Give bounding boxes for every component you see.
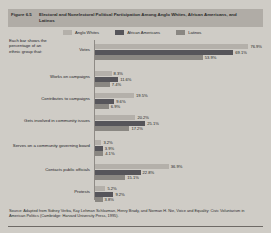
figure-title-line2: Latinos: [39, 18, 55, 23]
bar: [95, 186, 105, 191]
legend-swatch-icon: [63, 30, 72, 35]
bar-value-label: 69.1%: [235, 50, 247, 55]
bar-value-label: 3.2%: [103, 140, 112, 145]
bar: [95, 121, 145, 126]
bar-value-label: 6.9%: [111, 104, 120, 109]
bar-value-label: 4.1%: [105, 151, 114, 156]
bar: [95, 71, 112, 76]
bar-set: 5.2%9.2%3.8%: [95, 186, 262, 203]
bar: [95, 77, 118, 82]
bar-row: 11.6%: [95, 77, 262, 82]
bar-value-label: 25.1%: [147, 121, 159, 126]
bar-value-label: 17.2%: [131, 126, 143, 131]
legend-item-latinos: Latinos: [176, 30, 201, 35]
category-label: Contributes to campaigns: [12, 96, 90, 101]
category-label: Contacts public officials: [12, 167, 90, 172]
bar-row: 17.2%: [95, 126, 262, 131]
bar-set: 20.2%25.1%17.2%: [95, 115, 262, 132]
bar-set: 36.9%22.8%15.1%: [95, 164, 262, 181]
bar-row: 3.2%: [95, 140, 262, 145]
figure-title-line1: Electoral and Nonelectoral Political Par…: [39, 12, 237, 17]
bar-row: 4.1%: [95, 151, 262, 156]
bar-value-label: 3.9%: [105, 146, 114, 151]
bar-value-label: 9.6%: [116, 99, 125, 104]
bar: [95, 170, 141, 175]
bar-row: 53.9%: [95, 55, 262, 60]
legend-label: African Americans: [127, 30, 160, 35]
bar-row: 9.6%: [95, 99, 262, 104]
bar-row: 9.2%: [95, 192, 262, 197]
bar-value-label: 19.5%: [136, 93, 148, 98]
bar: [95, 55, 203, 60]
bar: [95, 50, 233, 55]
bar-set: 19.5%9.6%6.9%: [95, 93, 262, 110]
bar-row: 15.1%: [95, 175, 262, 180]
category-label: Votes: [12, 47, 90, 52]
bar-value-label: 8.3%: [114, 71, 123, 76]
chart-legend: Anglo WhitesAfrican AmericansLatinos: [63, 30, 201, 35]
category-label: Works on campaigns: [12, 74, 90, 79]
bar: [95, 115, 135, 120]
bar-row: 76.9%: [95, 44, 262, 49]
figure-number: Figure 6.5: [11, 12, 32, 17]
chart-plot-area: Votes76.9%69.1%53.9%Works on campaigns8.…: [9, 40, 262, 200]
bar-value-label: 3.8%: [105, 197, 114, 202]
bar-row: 6.9%: [95, 104, 262, 109]
bar-row: 5.2%: [95, 186, 262, 191]
bar: [95, 82, 110, 87]
bar-row: 25.1%: [95, 121, 262, 126]
bar: [95, 99, 114, 104]
bar-row: 69.1%: [95, 50, 262, 55]
bar: [95, 197, 103, 202]
bar: [95, 93, 134, 98]
bar-set: 3.2%3.9%4.1%: [95, 140, 262, 157]
bar-value-label: 20.2%: [137, 115, 149, 120]
bar: [95, 126, 129, 131]
source-note: Source: Adapted from Sidney Verba, Kay L…: [9, 208, 259, 218]
legend-item-african-americans: African Americans: [115, 30, 160, 35]
bar-row: 19.5%: [95, 93, 262, 98]
bar: [95, 140, 101, 145]
bar-row: 22.8%: [95, 170, 262, 175]
bar-row: 7.4%: [95, 82, 262, 87]
bar-row: 3.8%: [95, 197, 262, 202]
bar: [95, 164, 169, 169]
legend-swatch-icon: [176, 30, 185, 35]
category-label: Protests: [12, 189, 90, 194]
legend-label: Latinos: [188, 30, 201, 35]
bar-row: 20.2%: [95, 115, 262, 120]
bar-row: 8.3%: [95, 71, 262, 76]
bar: [95, 175, 125, 180]
bar-set: 8.3%11.6%7.4%: [95, 71, 262, 88]
bottom-divider: [8, 226, 263, 227]
bar: [95, 146, 103, 151]
bar-value-label: 22.8%: [143, 170, 155, 175]
figure-title-bar: Figure 6.5 Electoral and Nonelectoral Po…: [8, 9, 263, 27]
bar: [95, 44, 248, 49]
legend-swatch-icon: [115, 30, 124, 35]
bar-value-label: 36.9%: [171, 164, 183, 169]
bar-value-label: 76.9%: [250, 44, 262, 49]
bar: [95, 151, 103, 156]
legend-item-anglo-whites: Anglo Whites: [63, 30, 99, 35]
bar-value-label: 9.2%: [115, 192, 124, 197]
figure-panel: Figure 6.5 Electoral and Nonelectoral Po…: [0, 0, 271, 233]
bar-value-label: 11.6%: [120, 77, 131, 82]
bar-value-label: 53.9%: [205, 55, 217, 60]
bar-value-label: 15.1%: [127, 175, 139, 180]
bar: [95, 104, 109, 109]
category-label: Gets involved in community issues: [12, 118, 90, 123]
category-label: Serves on a community governing board: [12, 143, 90, 148]
bar: [95, 192, 113, 197]
bar-row: 3.9%: [95, 146, 262, 151]
bar-set: 76.9%69.1%53.9%: [95, 44, 262, 61]
legend-label: Anglo Whites: [75, 30, 99, 35]
bar-value-label: 7.4%: [112, 82, 121, 87]
bar-value-label: 5.2%: [107, 186, 116, 191]
bar-row: 36.9%: [95, 164, 262, 169]
